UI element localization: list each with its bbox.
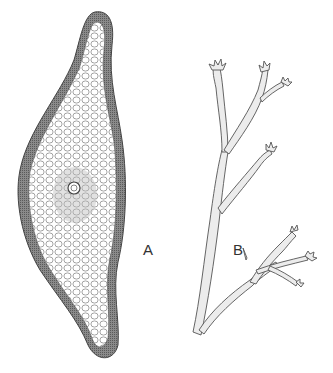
panel-label-a: A (143, 242, 153, 257)
panel-label-b: B (233, 242, 243, 257)
central-medulla (53, 167, 97, 223)
botanical-figure: A B (0, 0, 333, 373)
central-pore (68, 182, 80, 194)
panel-b-branching-thallus (193, 59, 317, 335)
figure-drawing (0, 0, 333, 373)
panel-a-cross-section (18, 12, 125, 358)
